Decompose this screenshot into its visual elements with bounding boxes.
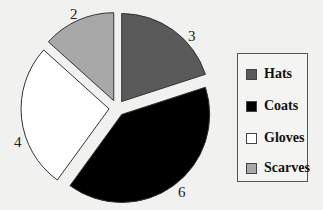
scarves-swatch <box>246 163 257 174</box>
gloves-swatch <box>246 133 257 144</box>
legend-label: Coats <box>264 98 298 114</box>
legend: Hats Coats Gloves Scarves <box>237 53 308 182</box>
legend-label: Scarves <box>264 160 310 176</box>
label-coats: 6 <box>178 184 186 201</box>
label-scarves: 2 <box>70 6 78 23</box>
pie-chart <box>0 0 230 210</box>
legend-label: Gloves <box>264 130 304 146</box>
legend-item-scarves: Scarves <box>246 160 310 176</box>
slice-hats <box>122 14 206 102</box>
hats-swatch <box>246 69 257 80</box>
legend-label: Hats <box>264 66 292 82</box>
legend-item-hats: Hats <box>246 66 292 82</box>
label-gloves: 4 <box>14 134 22 151</box>
coats-swatch <box>246 101 257 112</box>
legend-item-gloves: Gloves <box>246 130 304 146</box>
label-hats: 3 <box>188 28 196 45</box>
legend-item-coats: Coats <box>246 98 298 114</box>
